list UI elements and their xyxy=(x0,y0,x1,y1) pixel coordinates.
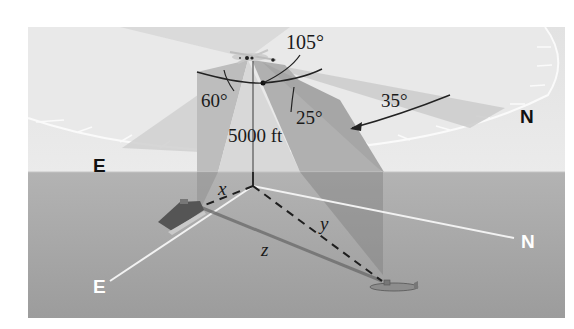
compass-north-label: N xyxy=(520,106,534,127)
altitude-label: 5000 ft xyxy=(228,125,283,146)
variable-y-label: y xyxy=(318,213,329,234)
angle-60-label: 60° xyxy=(201,90,228,111)
bearing-diagram: 105° 60° 25° 35° 5000 ft x y z E N E N xyxy=(0,0,574,329)
variable-x-label: x xyxy=(217,178,227,199)
variable-z-label: z xyxy=(260,239,269,260)
angle-105-label: 105° xyxy=(286,31,324,53)
angle-25-label: 25° xyxy=(296,107,323,128)
compass-east-label: E xyxy=(93,155,106,176)
ground-east-label: E xyxy=(93,276,106,297)
angle-35-label: 35° xyxy=(381,90,408,111)
ground-north-label: N xyxy=(521,231,535,252)
